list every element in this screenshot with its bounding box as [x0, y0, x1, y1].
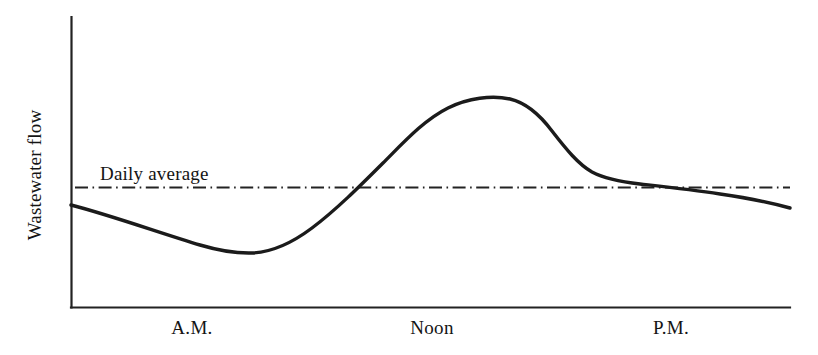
x-tick-label-noon: Noon [410, 317, 454, 338]
y-axis-title: Wastewater flow [24, 110, 45, 241]
wastewater-flow-chart: Daily average Wastewater flow A.M. Noon … [0, 0, 818, 355]
chart-canvas: Daily average Wastewater flow A.M. Noon … [0, 0, 818, 355]
x-tick-label-pm: P.M. [653, 317, 689, 338]
daily-average-label: Daily average [100, 163, 209, 184]
x-tick-label-am: A.M. [171, 317, 212, 338]
